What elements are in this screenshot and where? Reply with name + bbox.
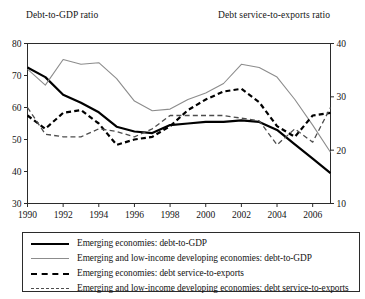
svg-text:2004: 2004 bbox=[268, 210, 287, 220]
legend-swatch-solid-thin bbox=[29, 252, 71, 264]
svg-text:10: 10 bbox=[337, 199, 347, 209]
line-chart-plot: 304050607080 10203040 199019921994199619… bbox=[0, 0, 365, 232]
svg-text:1990: 1990 bbox=[18, 210, 37, 220]
svg-text:70: 70 bbox=[12, 71, 22, 81]
x-axis-ticks: 199019921994199619982000200220042006 bbox=[18, 204, 322, 220]
legend-swatch-solid-thick bbox=[29, 237, 71, 249]
svg-text:1992: 1992 bbox=[54, 210, 73, 220]
right-axis-ticks: 10203040 bbox=[331, 39, 347, 209]
legend-label: Emerging economies: debt-to-GDP bbox=[77, 238, 207, 248]
svg-text:60: 60 bbox=[12, 103, 22, 113]
svg-text:40: 40 bbox=[337, 39, 347, 49]
legend: Emerging economies: debt-to-GDP Emerging… bbox=[22, 232, 360, 292]
svg-text:20: 20 bbox=[337, 146, 347, 156]
svg-text:2002: 2002 bbox=[232, 210, 251, 220]
legend-label: Emerging economies: debt service-to-expo… bbox=[77, 268, 244, 278]
svg-text:30: 30 bbox=[337, 92, 347, 102]
legend-item: Emerging economies: debt-to-GDP bbox=[23, 236, 359, 250]
svg-text:1998: 1998 bbox=[161, 210, 180, 220]
legend-item: Emerging and low-income developing econo… bbox=[23, 281, 359, 295]
svg-text:50: 50 bbox=[12, 135, 22, 145]
svg-text:1996: 1996 bbox=[125, 210, 144, 220]
svg-text:30: 30 bbox=[12, 199, 22, 209]
svg-text:40: 40 bbox=[12, 167, 22, 177]
legend-item: Emerging and low-income developing econo… bbox=[23, 251, 359, 265]
debt-ratios-figure: Debt-to-GDP ratio Debt service-to-export… bbox=[0, 0, 365, 299]
legend-item: Emerging economies: debt service-to-expo… bbox=[23, 266, 359, 280]
legend-swatch-dash-thick bbox=[29, 267, 71, 279]
legend-label: Emerging and low-income developing econo… bbox=[77, 253, 312, 263]
svg-text:2000: 2000 bbox=[196, 210, 215, 220]
left-axis-ticks: 304050607080 bbox=[12, 39, 28, 209]
legend-swatch-dash-thin bbox=[29, 282, 71, 294]
svg-text:80: 80 bbox=[12, 39, 22, 49]
legend-label: Emerging and low-income developing econo… bbox=[77, 283, 349, 293]
svg-text:1994: 1994 bbox=[89, 210, 108, 220]
svg-text:2006: 2006 bbox=[303, 210, 322, 220]
